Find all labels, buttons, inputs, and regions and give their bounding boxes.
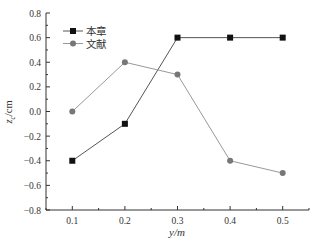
y-tick-label: 0.6: [29, 33, 41, 43]
x-tick-label: 0.5: [277, 216, 289, 226]
legend-item: 本章: [63, 25, 106, 37]
series-line: [72, 62, 282, 173]
circle-marker: [122, 59, 128, 65]
x-tick-label: 0.4: [224, 216, 236, 226]
y-tick-label: 0.2: [29, 82, 41, 92]
series-benzhang: [69, 35, 285, 164]
circle-marker: [227, 158, 233, 164]
y-axis-label: zc/cm: [3, 100, 17, 124]
x-axis-label: y/m: [168, 226, 185, 238]
y-tick-label: 0.4: [29, 58, 41, 68]
square-marker: [227, 35, 233, 41]
legend-label: 本章: [86, 25, 106, 37]
x-tick-label: 0.2: [119, 216, 131, 226]
legend-circle-marker: [70, 41, 76, 47]
circle-marker: [69, 109, 75, 115]
chart-canvas: 0.80.60.40.20.0−0.2−0.4−0.6−0.80.10.20.3…: [0, 0, 319, 243]
square-marker: [69, 158, 75, 164]
x-tick-label: 0.3: [172, 216, 184, 226]
legend-item: 文献: [63, 38, 107, 50]
legend-square-marker: [70, 28, 76, 34]
square-marker: [122, 121, 128, 127]
axes: 0.80.60.40.20.0−0.2−0.4−0.6−0.80.10.20.3…: [24, 9, 309, 227]
y-tick-label: −0.4: [24, 156, 41, 166]
line-chart: 0.80.60.40.20.0−0.2−0.4−0.6−0.80.10.20.3…: [0, 0, 319, 243]
y-tick-label: −0.2: [24, 132, 41, 142]
series-line: [72, 38, 282, 161]
series-wenxian: [69, 59, 285, 176]
circle-marker: [175, 72, 181, 78]
y-tick-label: −0.6: [24, 181, 41, 191]
y-tick-label: 0.0: [29, 107, 41, 117]
y-tick-label: −0.8: [24, 206, 41, 216]
legend-label: 文献: [86, 38, 107, 50]
series-layer: [69, 35, 285, 176]
y-tick-label: 0.8: [29, 9, 41, 19]
y-axis-label-text: zc/cm: [3, 100, 17, 124]
square-marker: [280, 35, 286, 41]
legend: 本章文献: [63, 25, 107, 50]
circle-marker: [280, 170, 286, 176]
x-tick-label: 0.1: [66, 216, 78, 226]
square-marker: [175, 35, 181, 41]
